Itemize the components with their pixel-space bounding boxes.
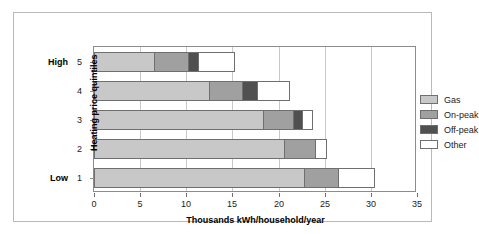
y-extreme-label-low: Low — [34, 173, 68, 183]
bar-row — [94, 168, 375, 188]
bar-segment-gas — [94, 139, 284, 159]
x-tick-label: 10 — [174, 199, 198, 209]
bar-segment-other — [315, 139, 326, 159]
x-tick-mark — [371, 193, 372, 197]
x-tick-mark — [186, 193, 187, 197]
legend-swatch-other — [420, 140, 438, 149]
y-tick-label: 4 — [70, 86, 82, 96]
bar-segment-off-peak — [188, 52, 198, 72]
y-tick-label: 2 — [70, 144, 82, 154]
x-tick-label: 20 — [267, 199, 291, 209]
legend-label: Other — [444, 140, 467, 150]
y-extreme-label-high: High — [34, 57, 68, 67]
legend-item: Other — [420, 138, 479, 151]
bar-segment-gas — [94, 81, 209, 101]
bar-row — [94, 139, 327, 159]
bar-segment-other — [302, 110, 313, 130]
x-tick-label: 25 — [313, 199, 337, 209]
legend-swatch-on-peak — [420, 110, 438, 119]
x-tick-label: 15 — [220, 199, 244, 209]
y-axis-title: Heating price quintiles — [89, 54, 99, 151]
bar-segment-gas — [94, 110, 263, 130]
plot-area: 1Low2345High 05101520253035 Heating pric… — [93, 46, 416, 192]
legend-swatch-off-peak — [420, 125, 438, 134]
figure-frame: 1Low2345High 05101520253035 Heating pric… — [13, 12, 432, 222]
bar-segment-other — [198, 52, 235, 72]
legend-item: On-peak — [420, 108, 479, 121]
bar-segment-on-peak — [154, 52, 188, 72]
x-tick-mark — [232, 193, 233, 197]
bar-row — [94, 81, 290, 101]
legend: GasOn-peakOff-peakOther — [420, 93, 479, 153]
legend-label: Off-peak — [444, 125, 478, 135]
x-tick-label: 35 — [405, 199, 429, 209]
y-tick-label: 3 — [70, 115, 82, 125]
bar-segment-on-peak — [263, 110, 293, 130]
bar-segment-off-peak — [293, 110, 301, 130]
bar-segment-other — [338, 168, 375, 188]
y-tick-mark — [90, 178, 94, 179]
bar-segment-off-peak — [242, 81, 258, 101]
y-tick-label: 1 — [70, 173, 82, 183]
bar-row — [94, 52, 235, 72]
bar-segment-on-peak — [209, 81, 241, 101]
legend-item: Gas — [420, 93, 479, 106]
legend-swatch-gas — [420, 95, 438, 104]
y-tick-label: 5 — [70, 57, 82, 67]
x-tick-label: 30 — [359, 199, 383, 209]
x-tick-label: 5 — [128, 199, 152, 209]
legend-label: On-peak — [444, 110, 479, 120]
bar-row — [94, 110, 313, 130]
x-tick-mark — [94, 193, 95, 197]
x-tick-mark — [325, 193, 326, 197]
x-tick-mark — [279, 193, 280, 197]
x-tick-mark — [140, 193, 141, 197]
bar-segment-on-peak — [284, 139, 315, 159]
bar-segment-on-peak — [304, 168, 337, 188]
x-tick-label: 0 — [82, 199, 106, 209]
bar-segment-other — [257, 81, 289, 101]
x-tick-mark — [417, 193, 418, 197]
bar-segment-gas — [94, 168, 304, 188]
x-axis-title: Thousands kWh/household/year — [94, 215, 417, 225]
legend-label: Gas — [444, 95, 461, 105]
legend-item: Off-peak — [420, 123, 479, 136]
bar-segment-gas — [94, 52, 154, 72]
